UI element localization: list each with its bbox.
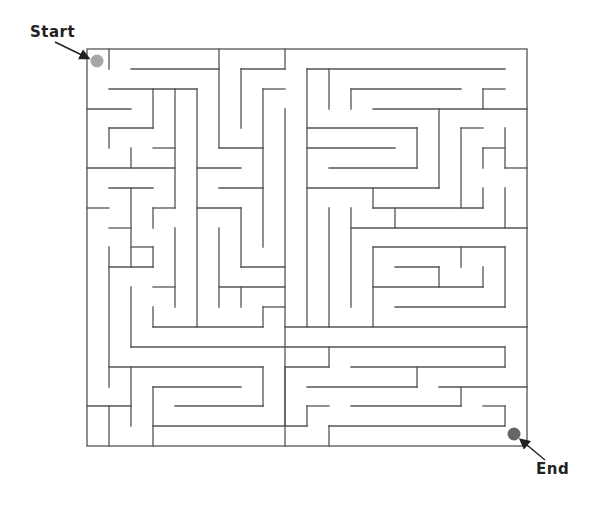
end-arrow-icon [521,440,545,460]
maze-board[interactable] [0,0,599,510]
start-marker-icon[interactable] [91,55,104,68]
start-arrow-icon [55,42,88,58]
end-marker-icon[interactable] [508,428,521,441]
maze-walls [87,49,527,446]
